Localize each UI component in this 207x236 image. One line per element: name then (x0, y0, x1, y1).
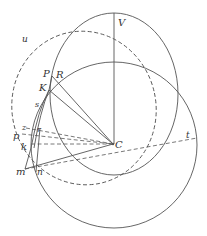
label-p-upper: P (42, 68, 50, 79)
label-t: t (186, 130, 190, 140)
line-p-c (52, 76, 113, 144)
label-n: n (37, 167, 43, 177)
label-c: C (115, 139, 123, 150)
label-u: u (22, 34, 28, 44)
label-v: V (118, 17, 127, 28)
arc-k-r (34, 90, 49, 148)
dashed-ellipse (0, 18, 170, 199)
label-m: m (16, 166, 25, 177)
point-c (112, 143, 114, 145)
label-s: s (35, 100, 39, 109)
label-r-upper: R (55, 69, 64, 80)
label-k-upper: K (38, 82, 47, 93)
label-r-lower: r (37, 125, 42, 134)
label-k-lower: k (21, 141, 27, 152)
label-z: z (21, 123, 27, 132)
geometry-diagram: V u P R K s z r p k C t m n (0, 0, 207, 236)
label-p-lower: p (13, 130, 20, 141)
